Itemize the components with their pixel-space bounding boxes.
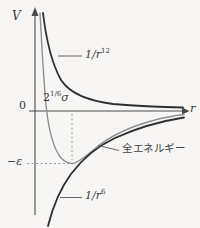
x-axis-label: r bbox=[190, 103, 196, 115]
minimum-position-label: 21/6σ bbox=[43, 92, 69, 103]
v-axis-arrowhead-icon bbox=[32, 7, 39, 16]
total-energy-label: 全エネルギー bbox=[122, 143, 185, 154]
minimum-position-exponent: 1/6 bbox=[50, 90, 61, 98]
y-axis-label: V bbox=[12, 10, 21, 22]
well-depth-epsilon: ε bbox=[16, 155, 22, 168]
well-depth-minus-sign: − bbox=[7, 155, 16, 168]
total-energy-label-leader-line bbox=[98, 146, 119, 151]
well-depth-label: −ε bbox=[7, 156, 22, 167]
attractive-curve-label: 1/r6 bbox=[85, 190, 105, 201]
attractive-curve-1-over-r6 bbox=[48, 118, 184, 227]
origin-label: 0 bbox=[19, 100, 26, 111]
r-axis-arrowhead-icon bbox=[182, 108, 190, 115]
attractive-curve-label-base: 1/r bbox=[85, 189, 101, 202]
lennard-jones-potential-diagram: V 0 r 1/r12 21/6σ 全エネルギー −ε 1/r6 bbox=[0, 0, 200, 228]
attractive-curve-label-exponent: 6 bbox=[101, 188, 105, 196]
repulsive-curve-label-base: 1/r bbox=[85, 48, 101, 61]
total-energy-curve bbox=[40, 13, 184, 164]
repulsive-curve-label: 1/r12 bbox=[85, 49, 110, 60]
minimum-position-base: 2 bbox=[43, 91, 50, 104]
repulsive-curve-label-exponent: 12 bbox=[101, 47, 110, 55]
minimum-position-sigma: σ bbox=[61, 91, 69, 104]
